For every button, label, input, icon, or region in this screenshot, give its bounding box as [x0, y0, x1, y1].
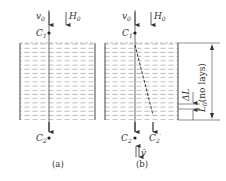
fluid-layer-a	[20, 43, 95, 120]
caption-b: (b)	[136, 159, 148, 169]
label-L0: L0(no lays)	[197, 63, 208, 113]
point-C2	[133, 136, 136, 139]
panel-a: v0 H0 C1 C2 (a)	[20, 10, 95, 169]
label-C1: C1	[122, 28, 133, 39]
label-vbar: v̄	[141, 148, 146, 158]
panel-b: v0 H0 C1 C2 C2′ v̄ ΔL L0(no lays) (b)	[105, 10, 220, 169]
caption-a: (a)	[52, 159, 64, 169]
point-C1	[47, 31, 50, 34]
label-v0: v0	[36, 11, 45, 22]
label-C1: C1	[36, 28, 47, 39]
label-C2-prime: C2′	[149, 132, 162, 144]
point-C2	[47, 136, 50, 139]
label-H0: H0	[153, 11, 166, 22]
label-C2: C2	[121, 133, 132, 144]
fluid-layer-b	[105, 43, 178, 120]
label-C2: C2	[36, 133, 47, 144]
label-v0: v0	[122, 11, 131, 22]
point-C1	[133, 31, 136, 34]
fluid-column-diagram: v0 H0 C1 C2 (a) v0 H0 C1	[0, 0, 226, 181]
label-H0: H0	[68, 11, 81, 22]
label-deltaL: ΔL	[181, 89, 191, 102]
